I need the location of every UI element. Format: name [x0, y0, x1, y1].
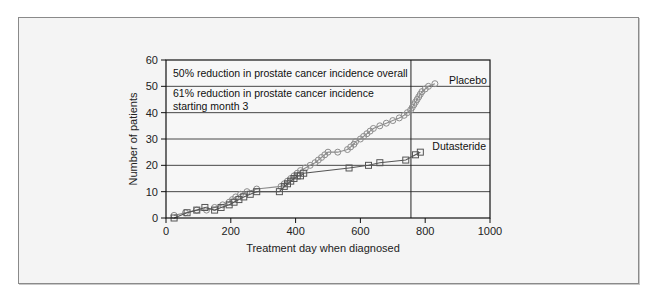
annotation-overall: 50% reduction in prostate cancer inciden… [173, 67, 408, 79]
x-tick-label: 800 [416, 225, 434, 237]
y-tick-label: 20 [146, 159, 158, 171]
x-tick-label: 400 [286, 225, 304, 237]
y-tick-label: 40 [146, 107, 158, 119]
x-axis-label: Treatment day when diagnosed [246, 242, 400, 254]
legend-label-dutasteride: Dutasteride [432, 140, 486, 152]
gridlines [166, 60, 490, 218]
y-tick-label: 30 [146, 133, 158, 145]
x-tick-label: 200 [222, 225, 240, 237]
x-tick-label: 0 [163, 225, 169, 237]
x-tick-label: 1000 [478, 225, 502, 237]
annotation-month3-line2: starting month 3 [173, 100, 248, 112]
annotation-month3-line1: 61% reduction in prostate cancer inciden… [173, 87, 374, 99]
x-tick-label: 600 [351, 225, 369, 237]
y-tick-label: 0 [152, 212, 158, 224]
legend-label-placebo: Placebo [449, 74, 487, 86]
y-axis-label: Number of patients [127, 92, 139, 185]
cumulative-incidence-chart: 010203040506002004006008001000 50% reduc… [0, 0, 657, 301]
y-tick-label: 10 [146, 186, 158, 198]
y-tick-label: 50 [146, 80, 158, 92]
y-tick-label: 60 [146, 54, 158, 66]
